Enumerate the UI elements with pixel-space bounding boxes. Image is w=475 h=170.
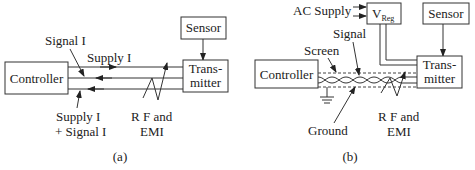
transmitter-label-line1-b: Trans- [423,57,456,72]
ground-pointer-b [334,87,355,123]
sum-pointer-a [77,91,80,108]
sensor-box-a: Sensor [181,17,226,39]
controller-label-b: Controller [260,67,314,82]
vreg-sub: Reg [381,14,394,23]
vreg-box-b: VReg [367,3,401,24]
transmitter-box-a: Trans- mitter [183,60,228,92]
rf-label-line2-b: EMI [387,124,411,139]
rf-label-line2-a: EMI [140,124,164,139]
caption-b: (b) [342,149,357,164]
signal-label-a: Signal I [45,33,86,48]
signal-pointer-a [70,49,84,76]
sum-label-line2-a: + Signal I [55,124,106,139]
screen-label-b: Screen [304,43,340,58]
sum-label-line1-a: Supply I [56,109,100,124]
controller-box-a: Controller [5,62,68,94]
rf-label-line1-a: R F and [131,109,173,124]
supply-label-a: Supply I [87,50,131,65]
transmitter-label-line2-a: mitter [190,75,222,90]
controller-box-b: Controller [255,60,318,88]
ground-symbol-b [320,87,334,103]
sensor-label-b: Sensor [428,6,464,21]
transmitter-label-line1-a: Trans- [189,61,222,76]
diagram-canvas: Controller Sensor Trans- mitter Signal I… [0,0,475,170]
screen-pointer-b [328,58,336,72]
transmitter-box-b: Trans- mitter [417,56,462,88]
signal-pointer-b [353,42,359,75]
rf-emi-zigzag-b [381,72,405,96]
ac-supply-label-b: AC Supply [293,3,352,18]
ground-label-b: Ground [308,123,348,138]
transmitter-label-line2-b: mitter [424,71,456,86]
rf-label-line1-b: R F and [378,109,420,124]
controller-label-a: Controller [10,71,64,86]
signal-label-b: Signal [333,26,367,41]
diagram-a: Controller Sensor Trans- mitter Signal I… [5,17,228,164]
sensor-label-a: Sensor [186,20,222,35]
vreg-wire2-b [386,24,417,60]
rf-emi-zigzag-a [143,63,167,100]
diagram-b: AC Supply VReg Sensor Trans- mitter [255,3,469,164]
caption-a: (a) [113,149,127,164]
sensor-box-b: Sensor [423,3,469,24]
